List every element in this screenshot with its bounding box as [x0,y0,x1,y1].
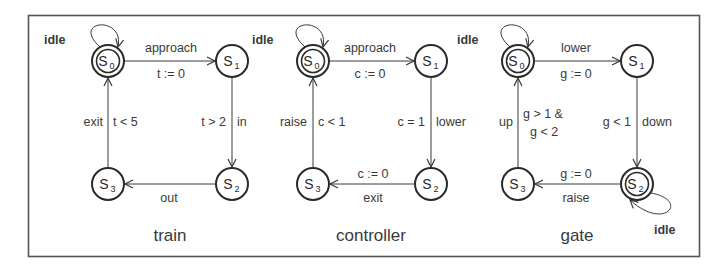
svg-text:S: S [628,53,637,69]
gate-lower-label: lower [561,41,591,55]
train-state-s0: S 0 [92,45,124,77]
controller-exit-label: exit [363,191,383,205]
train-in-guard: t > 2 [201,115,226,129]
automaton-gate: idle lower g := 0 g < 1 down idle g := 0… [457,25,676,245]
gate-state-s3: S 3 [502,168,534,200]
automaton-train: idle approach t := 0 t > 2 in out exit t… [44,25,248,245]
automata-diagram: idle approach t := 0 t > 2 in out exit t… [0,0,719,273]
gate-up-guard-line2: g < 2 [530,125,558,139]
gate-down-label: down [642,115,672,129]
svg-text:3: 3 [110,184,115,194]
train-idle-loop [91,25,119,47]
controller-lower-guard: c = 1 [398,115,425,129]
gate-raise-label: raise [562,191,589,205]
svg-text:S: S [422,176,431,192]
automaton-controller: idle approach c := 0 c = 1 lower c := 0 … [252,25,466,245]
controller-idle-label: idle [252,33,274,47]
svg-text:S: S [509,176,518,192]
gate-idle-loop-s0 [501,25,529,47]
svg-text:1: 1 [639,61,644,71]
gate-raise-guard: g := 0 [560,167,592,181]
controller-state-s3: S 3 [297,168,329,200]
svg-text:S: S [223,53,232,69]
svg-text:S: S [98,53,107,69]
svg-text:3: 3 [520,184,525,194]
train-state-s3: S 3 [92,168,124,200]
gate-state-s0: S 0 [502,45,534,77]
train-exit-guard: t < 5 [113,115,138,129]
svg-text:S: S [627,176,636,192]
train-state-s2: S 2 [216,168,248,200]
gate-idle-label-s0: idle [457,33,479,47]
train-idle-label: idle [44,33,66,47]
controller-state-s0: S 0 [297,45,329,77]
svg-text:1: 1 [433,61,438,71]
svg-text:2: 2 [234,184,239,194]
svg-text:2: 2 [638,184,643,194]
svg-text:3: 3 [315,184,320,194]
gate-up-label: up [499,115,513,129]
gate-title: gate [560,226,593,245]
gate-up-guard-line1: g > 1 & [523,107,564,121]
gate-lower-guard: g := 0 [560,67,592,81]
train-state-s1: S 1 [216,45,248,77]
controller-raise-guard: c < 1 [318,115,345,129]
diagram-canvas: idle approach t := 0 t > 2 in out exit t… [0,0,719,273]
controller-title: controller [336,226,406,245]
gate-state-s1: S 1 [621,45,653,77]
svg-text:1: 1 [234,61,239,71]
gate-idle-label-s2: idle [654,223,676,237]
svg-text:S: S [99,176,108,192]
svg-text:0: 0 [519,61,524,71]
svg-text:S: S [223,176,232,192]
train-approach-label: approach [145,41,197,55]
train-exit-label: exit [84,115,104,129]
train-out-label: out [160,191,178,205]
controller-approach-guard: c := 0 [355,67,386,81]
train-approach-guard: t := 0 [157,67,185,81]
controller-approach-label: approach [344,41,396,55]
controller-state-s2: S 2 [415,168,447,200]
svg-text:2: 2 [433,184,438,194]
controller-lower-label: lower [436,115,466,129]
controller-exit-guard: c := 0 [358,167,389,181]
train-title: train [153,226,186,245]
svg-text:0: 0 [109,61,114,71]
svg-text:S: S [422,53,431,69]
svg-text:S: S [304,176,313,192]
svg-text:S: S [303,53,312,69]
gate-down-guard: g < 1 [603,115,631,129]
train-in-label: in [237,115,247,129]
svg-text:S: S [508,53,517,69]
svg-text:0: 0 [314,61,319,71]
controller-idle-loop [296,25,324,47]
controller-state-s1: S 1 [415,45,447,77]
controller-raise-label: raise [280,115,307,129]
gate-state-s2: S 2 [621,168,653,200]
